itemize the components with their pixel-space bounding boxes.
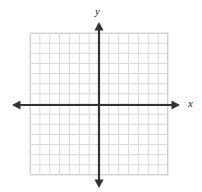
coordinate-grid-figure: y x xyxy=(0,0,202,192)
y-axis-label: y xyxy=(95,6,100,17)
x-axis-left-arrow-icon xyxy=(12,100,21,109)
coordinate-plane-svg xyxy=(0,0,202,192)
x-axis-right-arrow-icon xyxy=(172,100,181,109)
axes-group xyxy=(12,22,180,188)
x-axis-label: x xyxy=(188,98,193,109)
y-axis-down-arrow-icon xyxy=(94,180,103,189)
y-axis-up-arrow-icon xyxy=(94,22,103,31)
